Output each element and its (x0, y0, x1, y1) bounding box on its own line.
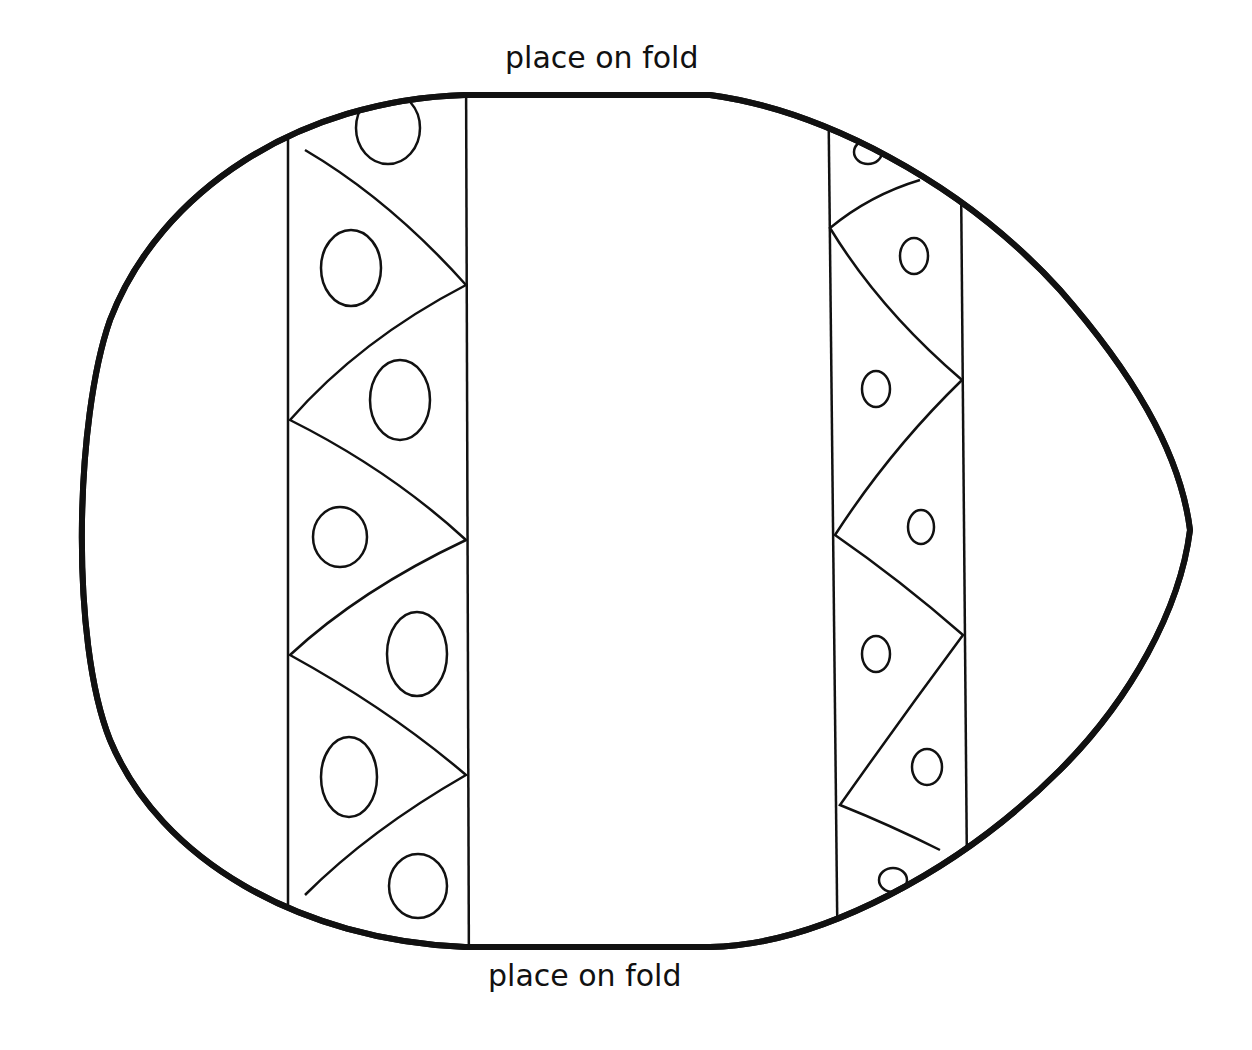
egg-outline (82, 95, 1190, 947)
left-band-right-edge (466, 60, 469, 990)
right-band-left-edge (828, 60, 838, 990)
place-on-fold-label-bottom: place on fold (488, 958, 681, 993)
egg-template-drawing (0, 0, 1252, 1050)
right-band-zigzag (830, 180, 963, 850)
